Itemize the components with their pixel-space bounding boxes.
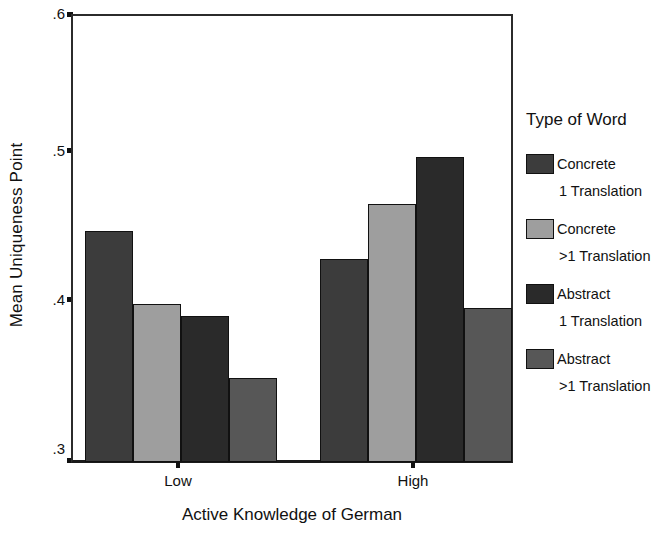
legend-entry-concrete-1translation[interactable]: Concrete 1 Translation: [526, 154, 659, 199]
legend-entry-concrete-multi[interactable]: Concrete >1 Translation: [526, 219, 659, 264]
y-tick-label-04: .4: [33, 292, 65, 307]
y-tick-label-03: .3: [33, 441, 65, 456]
x-tick-label-high: High: [398, 472, 429, 489]
bar-low-abstract-multi[interactable]: [229, 378, 277, 462]
legend-label-concrete-multi-line1: Concrete: [557, 221, 616, 237]
legend-swatch-abstract-multi: [526, 349, 554, 369]
legend-swatch-concrete-multi: [526, 219, 554, 239]
bar-high-concrete-1translation[interactable]: [320, 259, 368, 462]
legend-label-abstract-multi-line1: Abstract: [557, 351, 610, 367]
legend-swatch-concrete-1translation: [526, 154, 554, 174]
legend-label-concrete-1translation-line2: 1 Translation: [559, 183, 659, 199]
x-tick-label-low: Low: [164, 472, 192, 489]
legend-entry-abstract-multi[interactable]: Abstract >1 Translation: [526, 349, 659, 394]
bar-high-abstract-1translation[interactable]: [416, 157, 464, 462]
bar-low-concrete-1translation[interactable]: [85, 231, 133, 462]
legend-swatch-abstract-1translation: [526, 284, 554, 304]
y-tick-label-05: .5: [33, 143, 65, 158]
legend-label-abstract-1translation-line1: Abstract: [557, 286, 610, 302]
bar-high-abstract-multi[interactable]: [464, 308, 512, 462]
legend-title: Type of Word: [526, 110, 659, 130]
legend-label-concrete-multi-line2: >1 Translation: [559, 248, 659, 264]
legend-entry-abstract-1translation[interactable]: Abstract 1 Translation: [526, 284, 659, 329]
bars-layer: [71, 14, 513, 462]
y-axis-title: Mean Uniqueness Point: [0, 0, 34, 470]
x-tick-mark-high: [411, 461, 415, 468]
legend: Type of Word Concrete 1 Translation Conc…: [526, 110, 659, 414]
bar-low-concrete-multi[interactable]: [133, 304, 181, 462]
legend-label-abstract-multi-line2: >1 Translation: [559, 378, 659, 394]
legend-label-abstract-1translation-line2: 1 Translation: [559, 313, 659, 329]
x-tick-mark-low: [176, 461, 180, 468]
x-axis-title: Active Knowledge of German: [71, 505, 513, 525]
y-axis-title-text: Mean Uniqueness Point: [7, 143, 27, 328]
bar-high-concrete-multi[interactable]: [368, 204, 416, 462]
bar-low-abstract-1translation[interactable]: [181, 316, 229, 462]
y-tick-label-06: .6: [33, 6, 65, 21]
legend-label-concrete-1translation-line1: Concrete: [557, 156, 616, 172]
